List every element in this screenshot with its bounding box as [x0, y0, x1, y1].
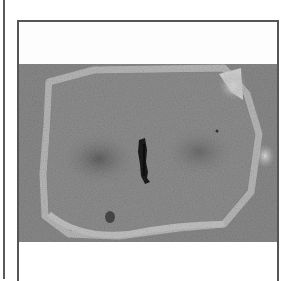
figure-header-text — [19, 22, 277, 64]
micrograph-image — [19, 64, 277, 242]
figure-frame — [17, 20, 279, 281]
cell-metaphase-illustration — [19, 64, 277, 242]
figure-caption-text — [19, 244, 277, 281]
outer-page-rule — [3, 0, 5, 279]
